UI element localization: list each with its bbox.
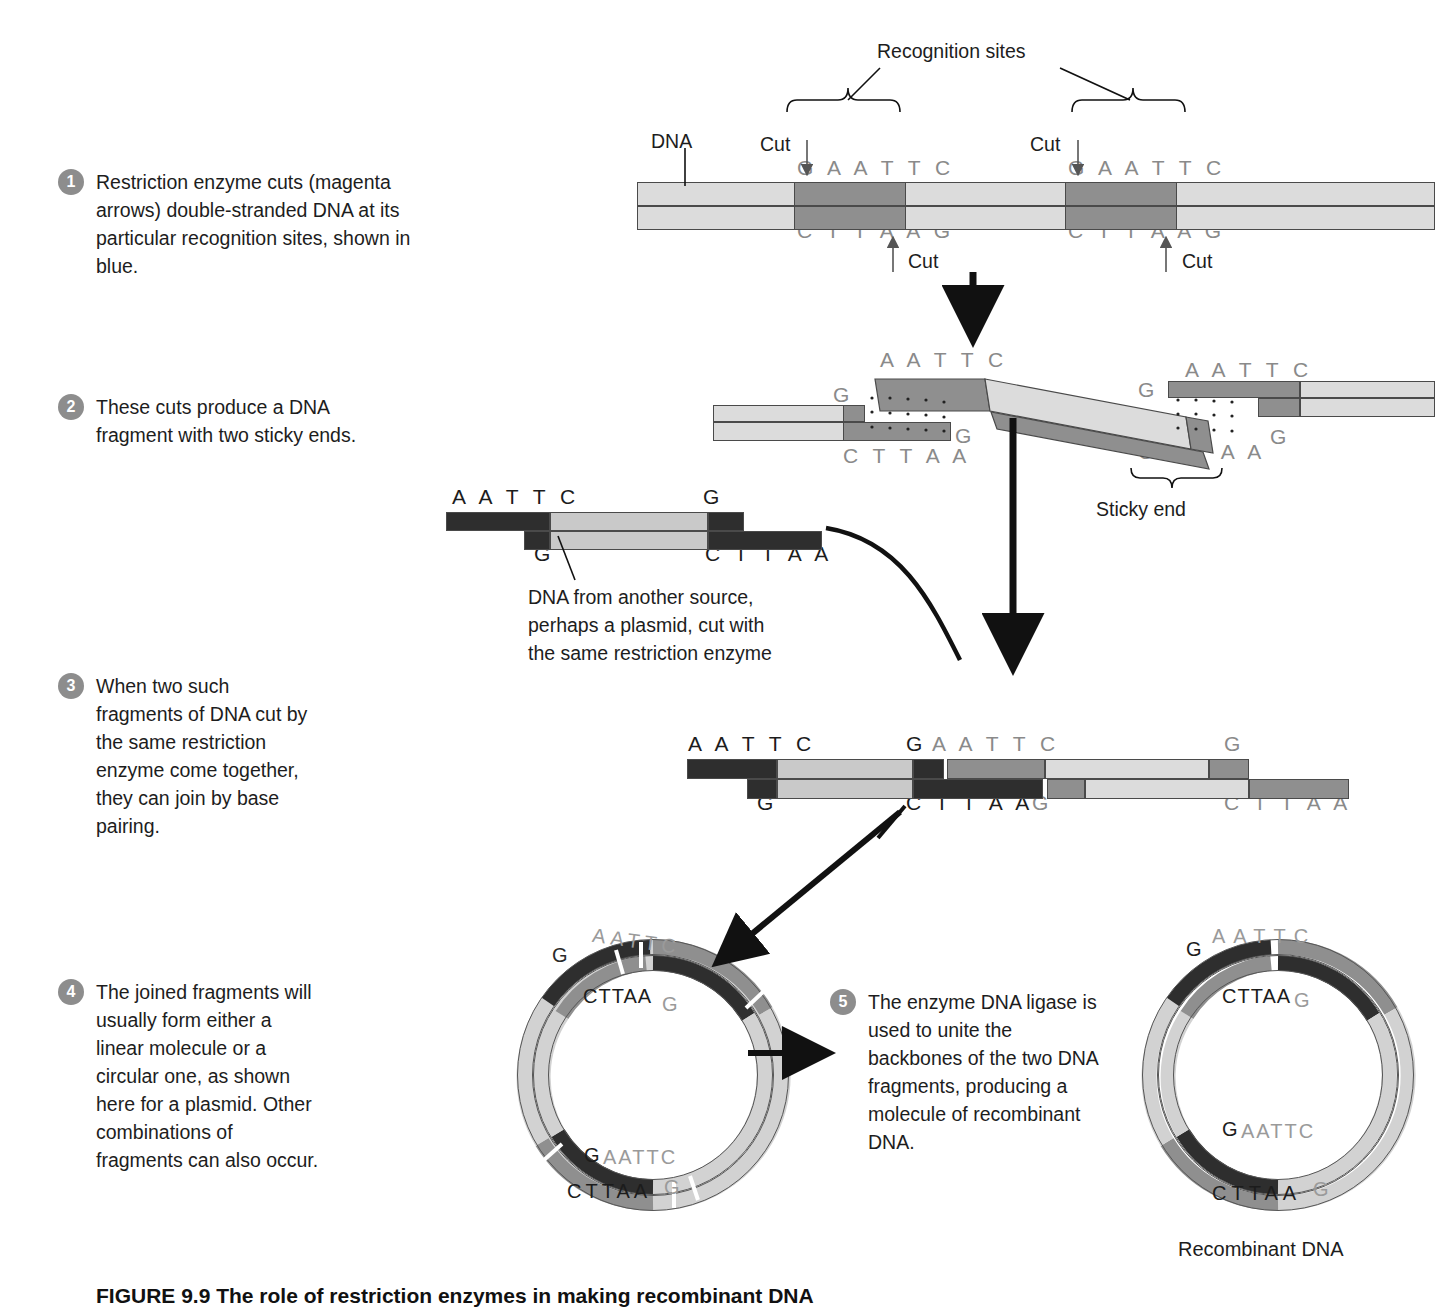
panel3-sticky-a-bottom [747,779,777,799]
panel2-right-fragment-bottom [1300,398,1435,417]
panel3-g-right-top: G [1224,732,1240,756]
step-3: 3 When two such fragments of DNA cut by … [58,672,308,840]
figure-caption: FIGURE 9.9 The role of restriction enzym… [96,1284,814,1308]
panel3-aattc-left: A A T T C [688,732,816,756]
panel3-sticky-c-bottom [1047,779,1085,799]
step-2: 2 These cuts produce a DNA fragment with… [58,393,388,449]
panel2-right-sticky-top [1168,381,1300,398]
cut-label-top-left: Cut [760,133,790,156]
panel3-body-c-top [1045,759,1209,779]
step-5-badge: 5 [830,989,856,1015]
panel2-right-sticky-bottom [1258,398,1300,417]
cut-label-bottom-right: Cut [1182,250,1212,273]
step-4-badge: 4 [58,979,84,1005]
panel3-sticky-d-bottom [1249,779,1349,799]
panel1-top-right-sequence: G A A T T C [1068,156,1226,180]
panel2-left-fragment-bottom [713,422,863,441]
plasmid-left-bottom-cttaa: CTTAA [567,1180,651,1203]
dna-label: DNA [651,130,692,153]
panel3-body-c-bottom [1085,779,1249,799]
source-fragment-g-top: G [703,485,719,509]
dna-top-strand-backbone [637,182,1435,206]
recognition-site-1-bottom [794,206,906,230]
panel3-sticky-a-top [687,759,777,779]
source-fragment-body-top [550,512,708,531]
cut-label-bottom-left: Cut [908,250,938,273]
panel3-g-mid-top: G [906,732,922,756]
source-fragment-sticky-left-bottom [524,531,550,550]
other-source-label-line3: the same restriction enzyme [528,642,772,665]
plasmid-right-top-g: G [1186,938,1202,961]
sticky-end-label: Sticky end [1096,498,1186,521]
recognition-site-1-top [794,182,906,206]
other-source-label-line2: perhaps a plasmid, cut with [528,614,764,637]
cut-label-top-right: Cut [1030,133,1060,156]
dna-bottom-strand-backbone [637,206,1435,230]
plasmid-right-top-aattc: AATTC [1212,925,1316,948]
source-fragment-sticky-left-top [446,512,550,531]
plasmid-left-top-g: G [552,944,568,967]
step-1-badge: 1 [58,169,84,195]
step-2-text: These cuts produce a DNA fragment with t… [96,393,388,449]
panel1-top-left-sequence: G A A T T C [797,156,955,180]
step-3-text: When two such fragments of DNA cut by th… [96,672,308,840]
plasmid-left-bottom-aattc: AATTC [603,1146,677,1169]
plasmid-right-bottom-cttaa: CTTAA [1212,1182,1301,1205]
panel3-body-a-bottom [777,779,913,799]
plasmid-right-top-g2: G [1294,989,1310,1012]
recognition-sites-label: Recognition sites [877,40,1026,63]
plasmid-right-bottom-g: G [1222,1118,1238,1141]
step-1-text: Restriction enzyme cuts (magenta arrows)… [96,168,458,280]
step-3-badge: 3 [58,673,84,699]
source-fragment-sticky-right-bottom [708,531,822,550]
source-fragment-sticky-right-top [708,512,744,531]
step-5: 5 The enzyme DNA ligase is used to unite… [830,988,1100,1156]
recognition-site-2-bottom [1065,206,1177,230]
plasmid-right-top-cttaa: CTTAA [1222,985,1291,1008]
panel2-left-g-top: G [833,383,849,407]
recognition-site-2-top [1065,182,1177,206]
source-fragment-aattc: A A T T C [452,485,580,509]
source-fragment-body-bottom [550,531,708,550]
panel3-sticky-c-top [947,759,1045,779]
recombinant-dna-label: Recombinant DNA [1178,1238,1344,1261]
step-4: 4 The joined fragments will usually form… [58,978,323,1174]
plasmid-left-bottom-g: G [584,1144,600,1167]
step-1: 1 Restriction enzyme cuts (magenta arrow… [58,168,458,280]
step-4-text: The joined fragments will usually form e… [96,978,323,1174]
plasmid-left-top-cttaa: CTTAA [583,985,652,1008]
panel3-sticky-d-top [1209,759,1249,779]
plasmid-left-top-g2: G [662,993,678,1016]
panel3-body-a-top [777,759,913,779]
plasmid-left [498,920,808,1230]
panel3-aattc-right: A A T T C [932,732,1060,756]
plasmid-right-bottom-aattc: AATTC [1241,1120,1315,1143]
panel3-sticky-b-bottom [913,779,1043,799]
panel2-left-sticky-top [843,405,865,422]
plasmid-left-bottom-g2: G [664,1176,680,1199]
other-source-label-line1: DNA from another source, [528,586,753,609]
step-2-badge: 2 [58,394,84,420]
panel3-sticky-b-top [913,759,944,779]
panel2-right-fragment-top [1300,381,1435,398]
plasmid-right-bottom-g2: G [1313,1178,1329,1201]
step-5-text: The enzyme DNA ligase is used to unite t… [868,988,1100,1156]
panel2-left-fragment-top [713,405,863,422]
